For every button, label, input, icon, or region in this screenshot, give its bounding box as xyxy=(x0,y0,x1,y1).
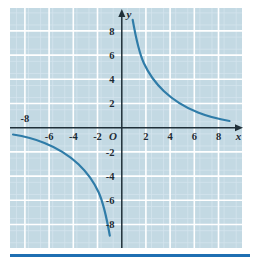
x-tick-label-neg2: -2 xyxy=(93,131,102,142)
x-axis-label: x xyxy=(235,130,242,142)
x-tick-label-4: 4 xyxy=(167,131,173,142)
y-tick-label-neg8: -8 xyxy=(106,219,115,230)
x-tick-label-neg4: -4 xyxy=(69,131,78,142)
y-axis-label: y xyxy=(125,8,132,20)
x-tick-label-2: 2 xyxy=(143,131,148,142)
bottom-rule xyxy=(10,254,250,257)
y-tick-label-neg6: -6 xyxy=(106,195,115,206)
y-tick-label-6: 6 xyxy=(109,50,114,61)
x-tick-label-6: 6 xyxy=(192,131,197,142)
y-tick-label-neg2: -2 xyxy=(106,147,115,158)
y-tick-label-4: 4 xyxy=(109,74,115,85)
y-tick-label-8: 8 xyxy=(109,26,114,37)
x-tick-label-neg8: -8 xyxy=(21,113,30,124)
origin-label: O xyxy=(109,130,117,142)
x-tick-label-8: 8 xyxy=(216,131,221,142)
y-tick-label-2: 2 xyxy=(109,98,114,109)
x-tick-label-neg6: -6 xyxy=(45,131,54,142)
graph-figure: -8 -6 -4 -2 2 4 6 8 8 6 4 2 -2 -4 -6 -8 … xyxy=(0,0,253,260)
y-tick-label-neg4: -4 xyxy=(106,171,115,182)
